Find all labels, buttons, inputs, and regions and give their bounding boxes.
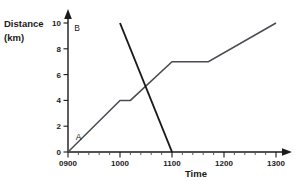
- chart-screenshot: 0246810 09001000110012001300 AB Distance…: [0, 0, 301, 181]
- y-axis-title-line1: Distance: [4, 18, 44, 29]
- series-line-a: [68, 23, 276, 152]
- y-tick-label: 6: [57, 71, 62, 80]
- x-tick-label: 0900: [59, 159, 77, 168]
- y-axis-group: 0246810: [52, 9, 72, 157]
- distance-time-graph: 0246810 09001000110012001300 AB Distance…: [0, 0, 301, 181]
- series-label-a: A: [76, 132, 82, 142]
- y-tick-label: 4: [57, 96, 62, 105]
- y-axis-tick-labels: 0246810: [52, 19, 61, 157]
- x-axis-tick-labels: 09001000110012001300: [59, 159, 285, 168]
- x-tick-label: 1200: [215, 159, 233, 168]
- x-axis-title: Time: [185, 168, 207, 179]
- x-axis-group: 09001000110012001300: [59, 148, 292, 168]
- x-axis-arrowhead: [282, 148, 292, 156]
- y-tick-label: 8: [57, 45, 62, 54]
- x-tick-label: 1000: [111, 159, 129, 168]
- x-tick-label: 1300: [267, 159, 285, 168]
- series-label-b: B: [74, 23, 80, 33]
- series-line-b: [120, 23, 172, 152]
- y-tick-label: 0: [57, 148, 62, 157]
- y-axis-arrowhead: [64, 9, 72, 19]
- series-inline-labels: AB: [74, 23, 82, 141]
- y-tick-label: 2: [57, 122, 62, 131]
- x-tick-label: 1100: [163, 159, 181, 168]
- data-series-group: [68, 23, 276, 152]
- y-tick-label: 10: [52, 19, 61, 28]
- y-axis-title-line2: (km): [4, 32, 24, 43]
